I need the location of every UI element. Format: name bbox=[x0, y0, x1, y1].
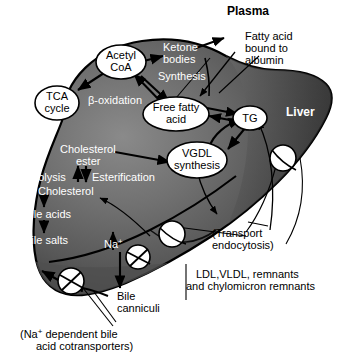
label-esterification: Esterification bbox=[92, 171, 155, 183]
label-beta-oxidation: β-oxidation bbox=[88, 94, 142, 106]
label-ldl-vldl-line1: LDL,VLDL, remnants bbox=[196, 268, 299, 280]
label-ketone-synthesis: Synthesis bbox=[158, 70, 206, 82]
label-hydrolysis: Hydrolysis bbox=[15, 171, 66, 183]
node-acetyl-coa-line2: CoA bbox=[110, 61, 132, 73]
node-tca-cycle-line1: TCA bbox=[46, 90, 69, 102]
node-free-fatty-acid: Free fatty acid bbox=[143, 97, 209, 131]
label-cotransporters-line1: (Na+ dependent bile bbox=[20, 327, 118, 340]
label-cotransporters-line2: acid cotransporters) bbox=[36, 340, 133, 352]
node-vgdl-synthesis: VGDL synthesis bbox=[167, 142, 227, 178]
label-ketone-bodies-line2: bodies bbox=[163, 53, 196, 65]
transporter-endocytosis bbox=[159, 221, 186, 247]
label-transport-endocytosis-line1: (Transport bbox=[212, 227, 262, 239]
transporter-ldl-receptor bbox=[270, 145, 296, 171]
node-free-fatty-acid-line1: Free fatty bbox=[153, 101, 200, 113]
label-cholesterol-ester-line1: Cholesterol bbox=[60, 143, 116, 155]
node-acetyl-coa: Acetyl CoA bbox=[96, 45, 146, 79]
node-tca-cycle: TCA cycle bbox=[35, 86, 79, 120]
label-bile-canniculi-line2: canniculi bbox=[117, 302, 160, 314]
node-tg-label: TG bbox=[242, 112, 257, 124]
transporter-sodium-bile-upper bbox=[126, 245, 150, 269]
node-vgdl-synthesis-line2: synthesis bbox=[174, 159, 220, 171]
label-bile-salts: Bile salts bbox=[24, 234, 69, 246]
node-free-fatty-acid-line2: acid bbox=[166, 113, 186, 125]
label-fatty-acid-albumin-line2: bound to bbox=[245, 42, 288, 54]
node-tg: TG bbox=[233, 106, 267, 130]
label-bile-acids: Bile acids bbox=[24, 208, 72, 220]
node-acetyl-coa-line1: Acetyl bbox=[106, 49, 136, 61]
label-transport-endocytosis-line2: endocytosis) bbox=[212, 239, 274, 251]
node-vgdl-synthesis-line1: VGDL bbox=[182, 147, 212, 159]
transporter-sodium-bile-lower bbox=[58, 268, 84, 294]
label-ketone-bodies-line1: Ketone bbox=[163, 41, 198, 53]
label-liver: Liver bbox=[286, 105, 315, 119]
node-tca-cycle-line2: cycle bbox=[44, 102, 69, 114]
label-bile-canniculi-line1: Bile bbox=[117, 290, 135, 302]
label-fatty-acid-albumin-line3: albumin bbox=[245, 54, 284, 66]
label-cholesterol-ester-line2: ester bbox=[76, 155, 101, 167]
label-cholesterol: Cholesterol bbox=[38, 185, 94, 197]
liver-metabolism-diagram: Acetyl CoA TCA cycle Free fatty acid TG … bbox=[0, 0, 339, 357]
title-plasma: Plasma bbox=[227, 4, 269, 18]
label-fatty-acid-albumin-line1: Fatty acid bbox=[245, 30, 293, 42]
label-ldl-vldl-line2: and chylomicron remnants bbox=[186, 280, 316, 292]
